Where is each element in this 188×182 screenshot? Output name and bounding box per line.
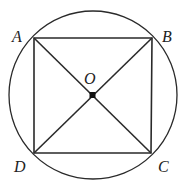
label-c: C — [158, 158, 169, 175]
label-d: D — [13, 158, 26, 175]
label-b: B — [162, 28, 172, 45]
label-a: A — [11, 28, 22, 45]
geometry-diagram: A B C D O — [0, 0, 188, 182]
center-point-o — [90, 92, 96, 98]
label-o: O — [84, 70, 96, 87]
